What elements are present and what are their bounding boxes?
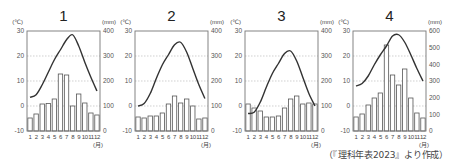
right-tick-label: 200 — [103, 77, 114, 84]
right-axis-unit: (mm) — [102, 19, 116, 25]
right-tick-label: 0 — [211, 127, 215, 134]
precipitation-bar — [288, 99, 292, 131]
month-label: 5 — [53, 134, 57, 140]
left-tick-label: 20 — [235, 52, 243, 59]
month-label: 4 — [155, 134, 159, 140]
left-tick-label: 20 — [17, 52, 25, 59]
left-tick-label: -10 — [233, 127, 243, 134]
right-tick-label: 300 — [103, 52, 114, 59]
left-tick-label: 10 — [17, 77, 25, 84]
temperature-line — [356, 34, 423, 86]
precipitation-bar — [34, 114, 38, 131]
month-label: 12 — [312, 134, 319, 140]
precipitation-bar — [396, 85, 400, 131]
left-tick-label: -10 — [123, 127, 133, 134]
month-label: 2 — [253, 134, 257, 140]
left-axis-unit: (℃) — [120, 19, 131, 25]
precipitation-bar — [264, 117, 268, 131]
month-label: 3 — [367, 134, 371, 140]
precipitation-bar — [354, 117, 358, 131]
precipitation-bar — [64, 75, 68, 131]
month-label: 3 — [259, 134, 263, 140]
precipitation-bar — [295, 96, 299, 131]
x-unit-label: (月) — [311, 142, 321, 149]
precipitation-bar — [421, 118, 425, 131]
left-tick-label: 10 — [343, 77, 351, 84]
month-label: 1 — [355, 134, 359, 140]
precipitation-bar — [95, 115, 99, 131]
precipitation-bar — [409, 98, 413, 131]
month-label: 12 — [420, 134, 427, 140]
right-tick-label: 100 — [429, 111, 440, 118]
month-label: 5 — [271, 134, 275, 140]
climate-charts: 1(℃)(mm)-1001020300100200300400123456789… — [0, 0, 452, 168]
left-tick-label: 0 — [20, 102, 24, 109]
x-unit-label: (月) — [93, 142, 103, 149]
precipitation-bar — [270, 117, 274, 131]
precipitation-bar — [154, 116, 158, 131]
precipitation-bar — [372, 98, 376, 131]
right-tick-label: 400 — [321, 27, 332, 34]
month-label: 6 — [385, 134, 389, 140]
month-label: 1 — [29, 134, 33, 140]
right-tick-label: 0 — [321, 127, 325, 134]
temperature-line — [138, 42, 205, 106]
precipitation-bar — [191, 106, 195, 131]
right-tick-label: 0 — [103, 127, 107, 134]
month-label: 5 — [379, 134, 383, 140]
month-label: 5 — [161, 134, 165, 140]
right-tick-label: 500 — [429, 44, 440, 51]
month-label: 9 — [295, 134, 299, 140]
month-label: 2 — [361, 134, 365, 140]
month-label: 4 — [265, 134, 269, 140]
precipitation-bar — [246, 104, 250, 131]
precipitation-bar — [77, 94, 81, 131]
right-tick-label: 600 — [429, 27, 440, 34]
precipitation-bar — [390, 75, 394, 131]
month-label: 1 — [247, 134, 251, 140]
month-label: 9 — [403, 134, 407, 140]
chart-title-3: 3 — [277, 7, 285, 24]
left-tick-label: 20 — [125, 52, 133, 59]
right-tick-label: 300 — [429, 77, 440, 84]
precipitation-bar — [282, 108, 286, 131]
right-axis-unit: (mm) — [428, 19, 442, 25]
right-tick-label: 0 — [429, 127, 433, 134]
month-label: 6 — [167, 134, 171, 140]
left-tick-label: -10 — [15, 127, 25, 134]
left-tick-label: 30 — [343, 27, 351, 34]
month-label: 7 — [65, 134, 69, 140]
right-axis-unit: (mm) — [210, 19, 224, 25]
precipitation-bar — [46, 104, 50, 132]
precipitation-bar — [83, 103, 87, 131]
right-tick-label: 300 — [321, 52, 332, 59]
chart-title-4: 4 — [385, 7, 393, 24]
precipitation-bar — [89, 113, 93, 131]
precipitation-bar — [313, 104, 317, 131]
month-label: 2 — [143, 134, 147, 140]
month-label: 6 — [277, 134, 281, 140]
left-tick-label: -10 — [341, 127, 351, 134]
left-tick-label: 30 — [17, 27, 25, 34]
precipitation-bar — [415, 113, 419, 131]
left-tick-label: 0 — [238, 102, 242, 109]
right-tick-label: 400 — [211, 27, 222, 34]
right-tick-label: 100 — [103, 102, 114, 109]
precipitation-bar — [203, 118, 207, 131]
precipitation-bar — [166, 104, 170, 131]
right-tick-label: 200 — [429, 94, 440, 101]
month-label: 2 — [35, 134, 39, 140]
month-label: 9 — [185, 134, 189, 140]
precipitation-bar — [197, 119, 201, 131]
left-axis-unit: (℃) — [230, 19, 241, 25]
month-label: 4 — [373, 134, 377, 140]
left-tick-label: 20 — [343, 52, 351, 59]
month-label: 8 — [179, 134, 183, 140]
left-tick-label: 0 — [128, 102, 132, 109]
month-label: 4 — [47, 134, 51, 140]
month-label: 8 — [289, 134, 293, 140]
right-tick-label: 400 — [429, 61, 440, 68]
precipitation-bar — [160, 113, 164, 131]
month-label: 3 — [41, 134, 45, 140]
chart-title-1: 1 — [59, 7, 67, 24]
